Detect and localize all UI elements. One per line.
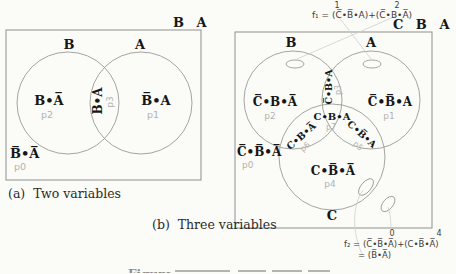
three-var-set-a-label: A bbox=[366, 35, 376, 50]
region-center-label: C•B•A bbox=[314, 111, 351, 122]
minterm-0-marker-ellipse bbox=[378, 194, 397, 214]
partial-caption-fragment bbox=[272, 270, 302, 272]
region-outside-three-label: C̅•B̅•A̅ bbox=[237, 145, 281, 159]
caption-three-variables: (b) Three variables bbox=[152, 217, 277, 232]
region-outside-two-p: p0 bbox=[14, 161, 26, 172]
region-cnbna-label: C̅•B•A̅ bbox=[253, 95, 297, 109]
region-b-only-label: B•A̅ bbox=[34, 93, 63, 108]
two-var-set-b-label: B bbox=[64, 37, 75, 52]
minterm-2-marker-ellipse bbox=[286, 60, 304, 68]
region-a-only-label: B̅•A bbox=[141, 93, 170, 108]
region-b-and-a-label: B•A bbox=[91, 87, 105, 114]
f1-term2-number: 2 bbox=[394, 1, 399, 10]
region-cnbna-p: p2 bbox=[264, 111, 275, 121]
f1-term1-number: 1 bbox=[334, 1, 339, 10]
region-c-only-label: C•B̅•A̅ bbox=[311, 164, 355, 178]
region-cnbn-a-label: C̅•B̅•A bbox=[368, 95, 412, 109]
region-b-and-a-p: p3 bbox=[105, 96, 115, 107]
f2-equation-line2: = (B̅•A̅) bbox=[358, 250, 391, 260]
f1-term2-connector-line bbox=[297, 16, 396, 59]
caption-two-variables: (a) Two variables bbox=[8, 186, 121, 201]
region-cn-b-a-p: p3 bbox=[334, 85, 343, 95]
three-var-set-b-label: B bbox=[286, 35, 297, 50]
region-outside-two-label: B̅•A̅ bbox=[10, 146, 39, 161]
venn-diagram-figure: B A B A B•A̅ p2 B̅•A p1 B•A p3 B̅•A̅ p0 … bbox=[0, 0, 456, 274]
two-var-set-a-label: A bbox=[135, 37, 145, 52]
region-outside-three-p: p0 bbox=[242, 160, 253, 170]
two-var-corner-label: B A bbox=[173, 15, 211, 30]
three-var-corner-label: C B A bbox=[393, 17, 453, 32]
partial-caption-fragment bbox=[175, 270, 230, 272]
minterm-1-marker-ellipse bbox=[363, 60, 381, 68]
region-b-only-p: p2 bbox=[41, 109, 53, 120]
region-c-only-p: p4 bbox=[324, 179, 335, 189]
f2-term1-number: 0 bbox=[389, 229, 394, 238]
minterm-4-marker-ellipse bbox=[356, 176, 377, 198]
region-cnbn-a-p: p1 bbox=[383, 111, 394, 121]
region-a-only-p: p1 bbox=[147, 109, 159, 120]
region-center-p: p7 bbox=[326, 123, 336, 132]
partial-caption-fragment bbox=[238, 270, 266, 272]
f2-term2-number: 4 bbox=[436, 229, 441, 238]
region-cn-b-a-label: C̅•B•A bbox=[323, 69, 334, 104]
three-var-set-c-label: C bbox=[327, 208, 337, 223]
f2-equation-line1: f₂ = (C̅•B̅•A̅)+(C•B̅•A̅) bbox=[344, 239, 439, 249]
partial-caption-fragment bbox=[308, 270, 330, 272]
